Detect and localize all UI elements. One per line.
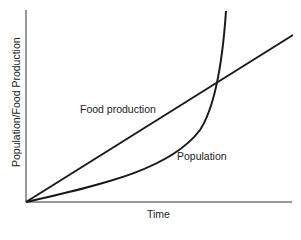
y-axis-label: Population/Food Production — [10, 37, 22, 167]
food-production-line — [26, 35, 293, 202]
food-production-label: Food production — [80, 103, 156, 115]
population-label: Population — [177, 150, 227, 162]
x-axis-label: Time — [147, 208, 170, 220]
